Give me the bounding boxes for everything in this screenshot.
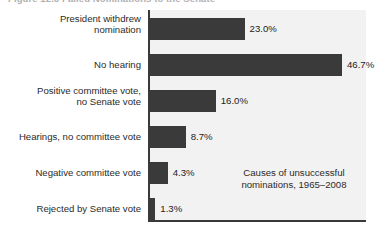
bar-chart-figure: Figure 12.3 Failed Nominations to the Se… (0, 0, 381, 232)
figure-title: Figure 12.3 Failed Nominations to the Se… (8, 0, 368, 4)
bar (150, 126, 186, 148)
bar-value-label: 8.7% (191, 131, 213, 142)
category-label-line-1: Positive committee vote, (0, 85, 141, 96)
bar-row: Positive committee vote,no Senate vote16… (0, 90, 381, 112)
bar-value-label: 46.7% (347, 59, 374, 70)
category-label-line-2: no Senate vote (0, 96, 141, 107)
category-label: Negative committee vote (0, 167, 141, 178)
bar-value-label: 16.0% (221, 95, 248, 106)
category-label-line-1: Negative committee vote (0, 167, 141, 178)
category-label: Positive committee vote,no Senate vote (0, 85, 141, 108)
bar (150, 18, 245, 40)
bar (150, 198, 155, 220)
bar-value-label: 23.0% (250, 23, 277, 34)
bar (150, 90, 216, 112)
category-label-line-2: nomination (0, 24, 141, 35)
category-label-line-1: Rejected by Senate vote (0, 203, 141, 214)
bar-row: President withdrewnomination23.0% (0, 18, 381, 40)
category-label: President withdrewnomination (0, 13, 141, 36)
bar-value-label: 1.3% (160, 203, 182, 214)
annotation-line-2: nominations, 1965–2008 (214, 179, 374, 191)
bar (150, 54, 342, 76)
annotation-line-1: Causes of unsuccessful (214, 167, 374, 179)
category-label-line-1: President withdrew (0, 13, 141, 24)
bar-row: Hearings, no committee vote8.7% (0, 126, 381, 148)
category-label: Rejected by Senate vote (0, 203, 141, 214)
bar-row: No hearing46.7% (0, 54, 381, 76)
category-label-line-1: Hearings, no committee vote (0, 131, 141, 142)
category-label: No hearing (0, 59, 141, 70)
bar (150, 162, 168, 184)
chart-annotation: Causes of unsuccessful nominations, 1965… (214, 167, 374, 191)
bar-row: Rejected by Senate vote1.3% (0, 198, 381, 220)
category-label: Hearings, no committee vote (0, 131, 141, 142)
category-label-line-1: No hearing (0, 59, 141, 70)
bar-value-label: 4.3% (173, 167, 195, 178)
